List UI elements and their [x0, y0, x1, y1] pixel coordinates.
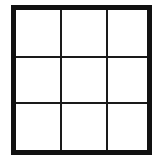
cell-0-2[interactable]	[108, 10, 147, 56]
cell-1-2[interactable]	[108, 58, 147, 102]
cell-2-2[interactable]	[108, 104, 147, 150]
cell-2-0[interactable]	[16, 104, 60, 150]
cell-0-1[interactable]	[62, 10, 106, 56]
cell-1-0[interactable]	[16, 58, 60, 102]
cell-2-1[interactable]	[62, 104, 106, 150]
cell-1-1[interactable]	[62, 58, 106, 102]
tic-tac-toe-board	[11, 5, 152, 155]
cell-0-0[interactable]	[16, 10, 60, 56]
